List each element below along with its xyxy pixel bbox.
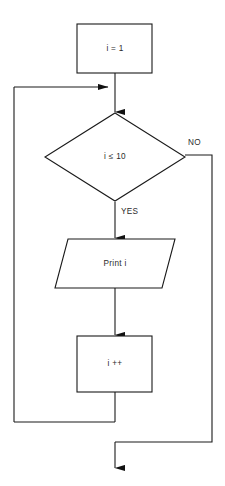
decision-node-condition-label: i ≤ 10: [104, 152, 126, 161]
flowchart-canvas: i = 1 i ≤ 10 Print i i ++ NO YES: [0, 0, 225, 486]
process-node-init-label: i = 1: [106, 44, 123, 53]
process-node-increment-label: i ++: [108, 359, 123, 368]
edge-no-branch: [115, 155, 212, 442]
edge-label-no: NO: [188, 138, 201, 147]
edge-label-yes: YES: [121, 207, 139, 216]
io-node-print-label: Print i: [103, 259, 126, 268]
flowchart-diagram: i = 1 i ≤ 10 Print i i ++ NO YES: [0, 0, 225, 486]
